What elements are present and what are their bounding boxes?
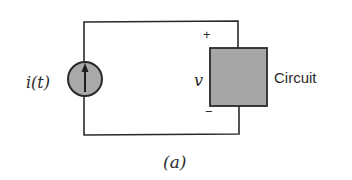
plus-sign: + xyxy=(203,28,211,41)
voltage-label: v xyxy=(194,73,203,89)
circuit-box xyxy=(210,48,267,106)
figure-caption: (a) xyxy=(163,154,186,171)
minus-sign: − xyxy=(205,105,213,118)
source-label: i(t) xyxy=(26,75,50,91)
current-source xyxy=(68,62,102,96)
circuit-label: Circuit xyxy=(274,70,317,85)
